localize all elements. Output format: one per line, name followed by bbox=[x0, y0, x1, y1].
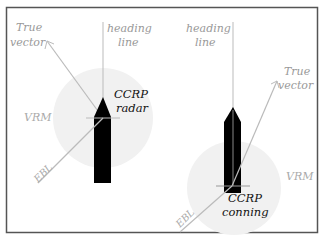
ccrp-label-left-2: radar bbox=[116, 101, 150, 115]
heading-label-left-1: heading bbox=[107, 22, 152, 35]
vrm-label-left: VRM bbox=[24, 111, 52, 124]
true-vector-label-right-2: vector bbox=[278, 79, 314, 92]
heading-label-right-1: heading bbox=[186, 22, 231, 35]
true-vector-label-left-2: vector bbox=[10, 36, 46, 49]
true-vector-label-left-1: True bbox=[16, 21, 43, 34]
ccrp-diagram: True vector heading line CCRP radar VRM … bbox=[0, 0, 325, 238]
heading-label-right-2: line bbox=[195, 36, 216, 49]
ccrp-label-right-1: CCRP bbox=[228, 191, 262, 205]
ccrp-label-right-2: conning bbox=[222, 205, 269, 219]
heading-label-left-2: line bbox=[118, 36, 139, 49]
vrm-label-right: VRM bbox=[286, 170, 314, 183]
ccrp-label-left-1: CCRP bbox=[114, 87, 148, 101]
true-vector-label-right-1: True bbox=[284, 65, 311, 78]
